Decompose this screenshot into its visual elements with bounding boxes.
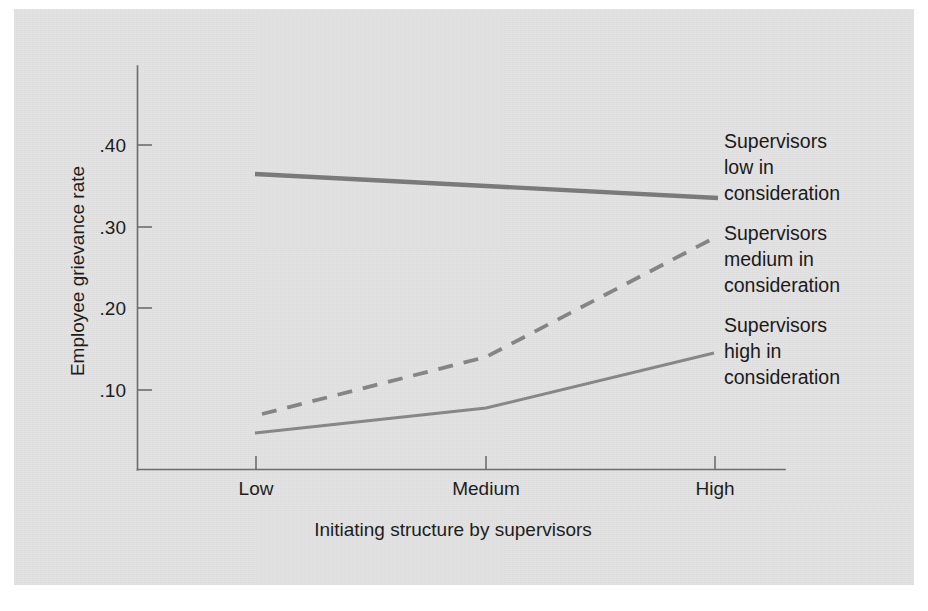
- series-line-medium-consideration: [262, 238, 714, 414]
- x-category-label-low: Low: [239, 478, 274, 499]
- y-axis-title: Employee grievance rate: [67, 166, 88, 376]
- line-chart: .40 .30 .20 .10 Low Medium High Initiati…: [0, 0, 928, 611]
- y-tick-label-030: .30: [100, 217, 126, 238]
- x-axis-title: Initiating structure by supervisors: [314, 519, 592, 540]
- legend-medium-line-1: Supervisors: [724, 222, 827, 244]
- y-tick-label-040: .40: [100, 135, 126, 156]
- legend-low-line-3: consideration: [724, 182, 840, 204]
- y-tick-label-010: .10: [100, 380, 126, 401]
- legend-high-line-3: consideration: [724, 366, 840, 388]
- legend-low-consideration: Supervisors low in consideration: [724, 130, 840, 204]
- legend-low-line-2: low in: [724, 156, 774, 178]
- figure-page: .40 .30 .20 .10 Low Medium High Initiati…: [0, 0, 928, 611]
- series-line-low-consideration: [255, 174, 718, 198]
- y-tick-label-020: .20: [100, 298, 126, 319]
- legend-high-consideration: Supervisors high in consideration: [724, 314, 840, 388]
- x-category-label-high: High: [695, 478, 734, 499]
- legend-medium-line-2: medium in: [724, 248, 814, 270]
- legend-low-line-1: Supervisors: [724, 130, 827, 152]
- x-category-label-medium: Medium: [452, 478, 520, 499]
- legend-medium-line-3: consideration: [724, 274, 840, 296]
- legend-medium-consideration: Supervisors medium in consideration: [724, 222, 840, 296]
- legend-high-line-2: high in: [724, 340, 781, 362]
- legend-high-line-1: Supervisors: [724, 314, 827, 336]
- series-line-high-consideration: [255, 353, 714, 433]
